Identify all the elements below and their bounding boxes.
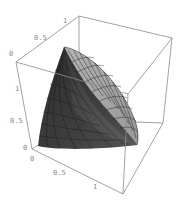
left-tick-1: 1 xyxy=(15,85,19,93)
bottom-tick-0: 0 xyxy=(30,155,34,163)
surface-plot-3d: 0 0.5 1 0 0.5 1 0 0.5 1 xyxy=(0,0,183,203)
top-tick-1: 1 xyxy=(63,17,67,25)
top-tick-0.5: 0.5 xyxy=(34,34,47,42)
bottom-tick-1: 1 xyxy=(93,183,97,191)
left-tick-0: 0 xyxy=(23,144,27,152)
left-tick-0.5: 0.5 xyxy=(10,117,23,125)
left-axis-ticks: 0 0.5 1 xyxy=(10,85,27,152)
top-tick-0: 0 xyxy=(9,50,13,58)
top-axis-ticks: 0 0.5 1 xyxy=(9,17,67,58)
bottom-axis-ticks: 0 0.5 1 xyxy=(30,155,97,191)
surface xyxy=(38,47,138,149)
bottom-tick-0.5: 0.5 xyxy=(53,169,66,177)
